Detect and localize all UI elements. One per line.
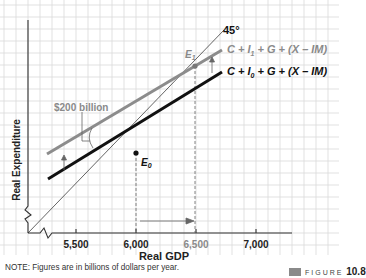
label-shift-200-billion: $200 billion bbox=[54, 102, 108, 113]
figure-number: 10.8 bbox=[346, 266, 365, 277]
label-line-i1: C + I1 + G + (X – IM) bbox=[227, 43, 328, 57]
x-tick-7000: 7,000 bbox=[243, 239, 268, 250]
y-axis bbox=[25, 20, 31, 233]
label-e1: E1 bbox=[185, 49, 196, 61]
figure-marker-icon bbox=[289, 268, 301, 276]
figure-caption-word: FIGURE bbox=[305, 269, 343, 276]
e1-point bbox=[192, 63, 197, 68]
e0-point bbox=[133, 150, 138, 155]
shift-arrows bbox=[62, 57, 215, 224]
label-line-i0: C + I0 + G + (X – IM) bbox=[227, 65, 328, 79]
x-tick-5500: 5,500 bbox=[63, 239, 88, 250]
footnote: NOTE: Figures are in billions of dollars… bbox=[5, 261, 179, 272]
label-45-degree: 45° bbox=[223, 24, 240, 36]
grid bbox=[0, 0, 339, 255]
x-tick-6500: 6,500 bbox=[183, 239, 208, 250]
x-tick-6000: 6,000 bbox=[123, 239, 148, 250]
figure-label: FIGURE 10.8 bbox=[289, 266, 366, 277]
label-e0: E0 bbox=[141, 157, 152, 169]
y-axis-label: Real Expenditure bbox=[11, 119, 22, 201]
